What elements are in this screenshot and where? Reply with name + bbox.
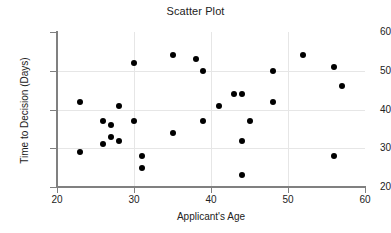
plot-area bbox=[57, 32, 365, 187]
data-point bbox=[139, 153, 145, 159]
data-point bbox=[170, 130, 176, 136]
data-point bbox=[331, 64, 337, 70]
y-axis-tick-label: 40 bbox=[345, 105, 391, 115]
y-axis-tick-label: 60 bbox=[345, 27, 391, 37]
data-point bbox=[193, 56, 199, 62]
data-point bbox=[108, 122, 114, 128]
scatter-plot-figure: Scatter Plot 2030405060 2030405060 Appli… bbox=[0, 0, 391, 233]
y-axis-tick-label: 30 bbox=[345, 143, 391, 153]
y-axis-tick-label: 50 bbox=[345, 66, 391, 76]
x-axis-label: Applicant's Age bbox=[57, 211, 365, 222]
data-point bbox=[116, 138, 122, 144]
x-axis-tick-label: 50 bbox=[268, 195, 308, 205]
x-axis-tick bbox=[211, 187, 212, 193]
y-axis-tick-label: 20 bbox=[345, 182, 391, 192]
chart-title: Scatter Plot bbox=[0, 5, 391, 17]
data-point bbox=[200, 68, 206, 74]
gridline-vertical bbox=[211, 32, 212, 187]
data-point bbox=[100, 141, 106, 147]
data-point bbox=[216, 103, 222, 109]
data-point bbox=[239, 172, 245, 178]
gridline-vertical bbox=[134, 32, 135, 187]
x-axis-tick-label: 30 bbox=[114, 195, 154, 205]
y-axis-tick bbox=[50, 148, 57, 149]
data-point bbox=[270, 99, 276, 105]
y-axis-tick bbox=[50, 32, 57, 33]
gridline-vertical bbox=[288, 32, 289, 187]
x-axis-tick-label: 20 bbox=[37, 195, 77, 205]
data-point bbox=[270, 68, 276, 74]
x-axis-tick bbox=[288, 187, 289, 193]
data-point bbox=[77, 149, 83, 155]
data-point bbox=[247, 118, 253, 124]
data-point bbox=[139, 165, 145, 171]
data-point bbox=[131, 60, 137, 66]
x-axis-tick bbox=[57, 187, 58, 193]
y-axis-tick bbox=[50, 187, 57, 188]
data-point bbox=[231, 91, 237, 97]
data-point bbox=[77, 99, 83, 105]
y-axis-label: Time to Decision (Days) bbox=[19, 33, 30, 188]
data-point bbox=[170, 52, 176, 58]
data-point bbox=[200, 118, 206, 124]
x-axis-tick-label: 60 bbox=[345, 195, 385, 205]
data-point bbox=[339, 83, 345, 89]
data-point bbox=[100, 118, 106, 124]
x-axis-tick bbox=[134, 187, 135, 193]
y-axis-tick bbox=[50, 71, 57, 72]
y-axis-tick bbox=[50, 110, 57, 111]
data-point bbox=[108, 134, 114, 140]
data-point bbox=[300, 52, 306, 58]
data-point bbox=[131, 118, 137, 124]
data-point bbox=[116, 103, 122, 109]
x-axis-tick-label: 40 bbox=[191, 195, 231, 205]
x-axis-tick bbox=[365, 187, 366, 193]
data-point bbox=[239, 138, 245, 144]
data-point bbox=[239, 91, 245, 97]
data-point bbox=[331, 153, 337, 159]
